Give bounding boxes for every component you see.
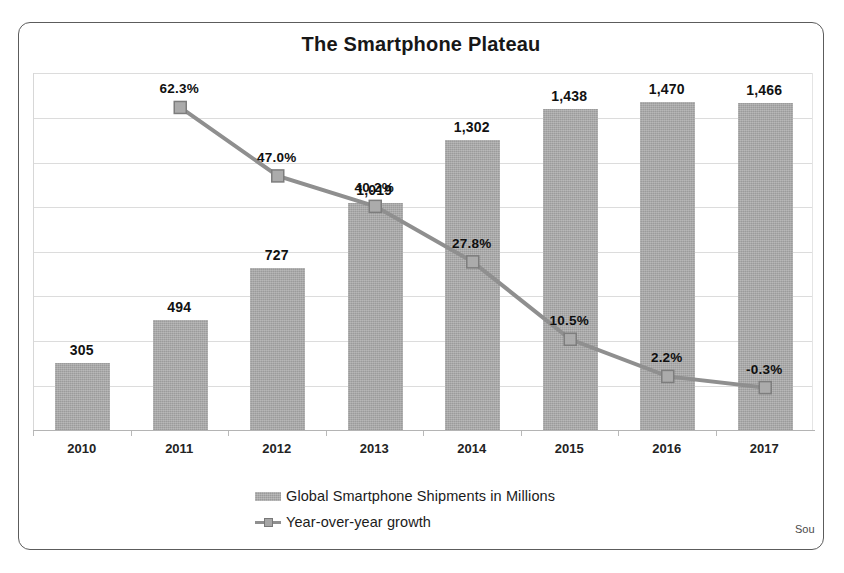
x-label-2014: 2014 (432, 441, 512, 456)
bar-label-2010: 305 (37, 342, 127, 358)
x-label-2013: 2013 (334, 441, 414, 456)
bar-2011 (153, 320, 208, 431)
bar-label-2014: 1,302 (427, 119, 517, 135)
bar-label-2012: 727 (232, 247, 322, 263)
gridline (34, 163, 812, 164)
bar-2015 (543, 109, 598, 431)
source-note: Sou (795, 523, 821, 535)
bar-2017 (738, 103, 793, 431)
bar-label-2016: 1,470 (622, 81, 712, 97)
legend-label-growth: Year-over-year growth (286, 514, 431, 530)
clipped-page-text (8, 0, 508, 4)
x-tick (131, 431, 132, 436)
bar-2016 (640, 102, 695, 431)
bar-2013 (348, 203, 403, 431)
bar-label-2017: 1,466 (719, 82, 809, 98)
chart-legend: Global Smartphone Shipments in Millions … (255, 483, 555, 535)
x-tick (716, 431, 717, 436)
bar-swatch-icon (255, 492, 281, 501)
bar-2014 (445, 140, 500, 431)
bar-label-2011: 494 (134, 299, 224, 315)
growth-label-2012: 47.0% (237, 150, 317, 165)
x-label-2011: 2011 (139, 441, 219, 456)
growth-label-2013: 40.2% (334, 180, 414, 195)
x-axis-line (33, 430, 815, 431)
bar-2010 (55, 363, 110, 431)
x-label-2015: 2015 (529, 441, 609, 456)
line-marker-icon (255, 516, 281, 528)
growth-label-2011: 62.3% (139, 81, 219, 96)
bar-2012 (250, 268, 305, 431)
growth-label-2016: 2.2% (627, 350, 707, 365)
x-tick (326, 431, 327, 436)
gridline (34, 207, 812, 208)
plot-area (33, 73, 813, 431)
legend-label-shipments: Global Smartphone Shipments in Millions (286, 488, 555, 504)
x-label-2010: 2010 (42, 441, 122, 456)
x-tick (228, 431, 229, 436)
gridline (34, 296, 812, 297)
chart-frame: The Smartphone Plateau 3054947271,0191,3… (18, 22, 824, 550)
growth-label-2014: 27.8% (432, 236, 512, 251)
legend-item-shipments: Global Smartphone Shipments in Millions (255, 483, 555, 509)
gridline (34, 341, 812, 342)
x-tick (33, 431, 34, 436)
gridline (34, 386, 812, 387)
x-tick (521, 431, 522, 436)
growth-label-2015: 10.5% (529, 313, 609, 328)
legend-item-growth: Year-over-year growth (255, 509, 555, 535)
x-label-2016: 2016 (627, 441, 707, 456)
x-tick (423, 431, 424, 436)
gridline (34, 73, 812, 74)
gridline (34, 118, 812, 119)
gridline (34, 252, 812, 253)
x-label-2012: 2012 (237, 441, 317, 456)
growth-label-2017: -0.3% (724, 362, 804, 377)
x-tick (618, 431, 619, 436)
x-label-2017: 2017 (724, 441, 804, 456)
chart-title: The Smartphone Plateau (19, 33, 823, 56)
bar-label-2015: 1,438 (524, 88, 614, 104)
